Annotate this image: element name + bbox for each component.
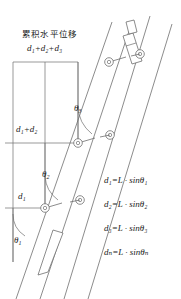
inclinometer-diagram-figure: 累积水平位移 d₁+d₂+d₃ d₁+d₂ d₁ θ3 θ2 θ1 d₁=L ·… [0,0,181,299]
theta-1-arc [13,214,25,236]
probe-connector-head [126,20,137,34]
theta-2-subscript: 2 [46,174,49,180]
theta-1-label: θ1 [14,236,21,245]
probe-body-upper [123,33,142,64]
level-two-displacement-label: d₁+d₂ [16,125,37,134]
theta-3-subscript: 3 [78,108,81,114]
level-one-displacement-label: d₁ [18,192,26,201]
inclinometer-casing [16,16,172,299]
theta-3-label: θ3 [74,104,81,113]
formula-d1: d₁=L · sinθ₁ [104,176,147,185]
guide-wheel-3 [74,139,83,148]
guide-wheel-assembly [41,50,145,213]
figure-title-chinese: 累积水平位移 [22,30,77,39]
theta-1-subscript: 1 [18,240,21,246]
formula-dn: dₙ=L · sinθₙ [104,248,148,257]
cumulative-displacement-label: d₁+d₂+d₃ [27,44,62,53]
guide-wheel-1 [105,58,114,67]
casing-line-outer-left [16,22,112,299]
theta-2-label: θ2 [42,170,49,179]
guide-wheel-5 [41,204,50,213]
formula-d3: d₃=L · sinθ₃ [104,224,147,233]
reference-grid [5,62,78,262]
casing-line-outer-right [88,24,172,299]
formula-d2: d₂=L · sinθ₂ [104,200,147,209]
